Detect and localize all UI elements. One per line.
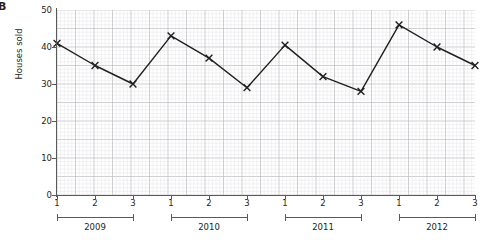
- year-bracket-end: [399, 214, 400, 221]
- y-axis-title: Houses sold: [12, 4, 26, 104]
- year-bracket-end: [133, 214, 134, 221]
- year-bracket-end: [247, 214, 248, 221]
- year-bracket-end: [171, 214, 172, 221]
- data-point-marker: [358, 88, 365, 95]
- x-tick-label: 1: [47, 199, 67, 208]
- data-point-marker: [130, 81, 137, 88]
- x-tick-mark: [57, 195, 58, 199]
- y-axis-line: [56, 8, 57, 197]
- y-tick-mark: [52, 158, 56, 159]
- year-bracket: [285, 217, 361, 218]
- x-tick-mark: [171, 195, 172, 199]
- year-bracket: [171, 217, 247, 218]
- y-tick-mark: [52, 121, 56, 122]
- y-tick-label: 20: [18, 117, 52, 125]
- y-tick-label: 50: [18, 6, 52, 14]
- x-tick-mark: [285, 195, 286, 199]
- data-point-marker: [282, 42, 289, 49]
- x-tick-mark: [437, 195, 438, 199]
- data-point-marker: [54, 40, 61, 47]
- y-tick-label: 0: [18, 191, 52, 199]
- y-tick-label: 30: [18, 80, 52, 88]
- x-tick-mark: [209, 195, 210, 199]
- data-point-marker: [168, 33, 175, 40]
- y-tick-mark: [52, 47, 56, 48]
- year-bracket-end: [361, 214, 362, 221]
- x-tick-mark: [247, 195, 248, 199]
- data-series-line: [57, 10, 475, 195]
- x-tick-label: 2: [313, 199, 333, 208]
- year-bracket-end: [57, 214, 58, 221]
- data-point-marker: [244, 84, 251, 91]
- data-point-marker: [206, 55, 213, 62]
- data-point-marker: [396, 21, 403, 28]
- x-axis-line: [56, 195, 476, 196]
- data-point-marker: [92, 62, 99, 69]
- x-tick-mark: [399, 195, 400, 199]
- y-tick-label: 40: [18, 43, 52, 51]
- y-tick-mark: [52, 195, 56, 196]
- year-label: 2009: [57, 222, 133, 232]
- x-tick-label: 1: [161, 199, 181, 208]
- data-point-marker: [472, 62, 479, 69]
- year-label: 2011: [285, 222, 361, 232]
- plot-area: [57, 10, 475, 195]
- year-label: 2010: [171, 222, 247, 232]
- x-tick-mark: [361, 195, 362, 199]
- chart-figure: B Houses sold 01020304050 123123123123 2…: [0, 0, 484, 240]
- y-tick-label: 10: [18, 154, 52, 162]
- series-polyline: [57, 25, 475, 92]
- data-point-marker: [434, 44, 441, 51]
- x-tick-label: 3: [237, 199, 257, 208]
- year-bracket: [57, 217, 133, 218]
- x-tick-label: 2: [85, 199, 105, 208]
- x-tick-mark: [323, 195, 324, 199]
- x-tick-label: 3: [351, 199, 371, 208]
- year-bracket-end: [285, 214, 286, 221]
- x-tick-mark: [95, 195, 96, 199]
- data-point-marker: [320, 73, 327, 80]
- x-tick-mark: [475, 195, 476, 199]
- x-tick-label: 2: [199, 199, 219, 208]
- x-tick-label: 1: [275, 199, 295, 208]
- y-tick-mark: [52, 84, 56, 85]
- x-tick-mark: [133, 195, 134, 199]
- panel-letter: B: [0, 1, 6, 12]
- x-tick-label: 1: [389, 199, 409, 208]
- year-label: 2012: [399, 222, 475, 232]
- x-tick-label: 2: [427, 199, 447, 208]
- x-tick-label: 3: [123, 199, 143, 208]
- x-tick-label: 3: [465, 199, 484, 208]
- year-bracket-end: [475, 214, 476, 221]
- year-bracket: [399, 217, 475, 218]
